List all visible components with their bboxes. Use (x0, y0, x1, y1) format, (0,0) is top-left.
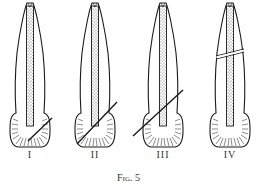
tooth-panel-i (10, 3, 52, 147)
panel-label-ii: II (91, 149, 100, 160)
panel-label-i: I (28, 149, 32, 160)
figure-diagram (0, 0, 259, 187)
tooth-panel-iv (210, 3, 250, 147)
panel-label-iv: IV (224, 149, 237, 160)
tooth-panel-ii (75, 3, 117, 147)
figure-caption: Fig. 5 (117, 172, 140, 183)
panel-label-iii: III (157, 149, 170, 160)
tooth-panel-iii (133, 3, 183, 147)
